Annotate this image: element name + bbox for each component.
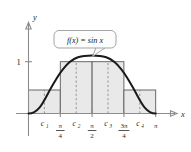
x-tick-label-pi-over-4: π 4: [56, 122, 65, 140]
midpoint-label-c1: c 1: [41, 119, 49, 129]
midpoint-label-c3: c 3: [104, 119, 112, 129]
midpoint-label-c1-sub: 1: [46, 123, 49, 129]
midpoint-rectangles: [29, 62, 156, 114]
midpoint-label-c3-sub: 3: [110, 123, 113, 129]
x-tick-label-three-pi-over-4-numerator: 3π: [120, 122, 128, 130]
function-callout: f(x) = sin x: [54, 31, 116, 57]
x-tick-label-pi-over-2: π 2: [88, 122, 97, 140]
x-tick-label-pi-over-2-numerator: π: [90, 122, 94, 130]
midpoint-label-c3-base: c: [104, 119, 108, 128]
midpoint-label-c4-sub: 4: [141, 123, 144, 129]
x-tick-label-pi: π: [154, 122, 158, 130]
x-tick-label-pi-over-2-denominator: 2: [90, 132, 94, 140]
midpoint-label-c2-sub: 2: [78, 123, 81, 129]
x-axis-label: x: [180, 109, 185, 119]
x-tick-label-three-pi-over-4: 3π 4: [118, 122, 129, 140]
figure-container: f(x) = sin x y x 1 c 1 c 2 c 3 c 4 π 4: [0, 0, 191, 152]
y-tick-label-1: 1: [16, 57, 20, 67]
midpoint-label-c4-base: c: [136, 119, 140, 128]
midpoint-label-c2: c 2: [73, 119, 81, 129]
callout-label: f(x) = sin x: [67, 36, 104, 45]
x-tick-label-pi-over-4-denominator: 4: [59, 132, 63, 140]
x-tick-label-pi-over-4-numerator: π: [59, 122, 63, 130]
sine-midpoint-rule-figure: f(x) = sin x y x 1 c 1 c 2 c 3 c 4 π 4: [0, 0, 191, 152]
midpoint-label-c1-base: c: [41, 119, 45, 128]
midpoint-label-c4: c 4: [136, 119, 144, 129]
y-axis-label: y: [32, 12, 37, 22]
x-tick-label-three-pi-over-4-denominator: 4: [122, 132, 126, 140]
midpoint-label-c2-base: c: [73, 119, 77, 128]
